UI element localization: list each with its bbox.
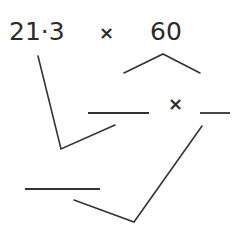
split-caret [124,54,200,73]
left-connector [38,56,115,149]
bottom-connector [74,126,202,222]
connector-lines [0,0,241,251]
